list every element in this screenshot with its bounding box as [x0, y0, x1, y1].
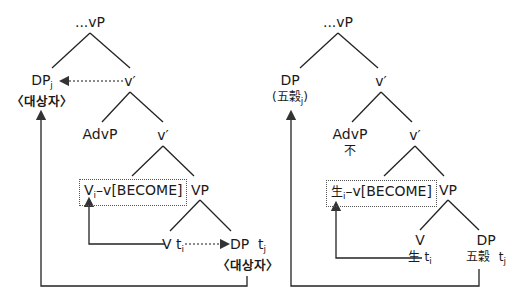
- vbar1-node: v′: [375, 73, 386, 89]
- advp-label: AdvP: [333, 126, 368, 142]
- v-word: 生: [408, 250, 420, 264]
- vbar1-node: v′: [124, 73, 135, 89]
- v-label: V: [162, 236, 172, 252]
- vbar2-node: v′: [157, 127, 168, 143]
- head-become-label: –v[BECOME]: [96, 182, 182, 198]
- dp-label: DP: [476, 232, 495, 248]
- head-v-label: V: [84, 182, 94, 198]
- head-complex-box: 生i–v[BECOME]: [326, 180, 437, 207]
- spec-dp-node: DPj 〈대상자〉: [11, 72, 73, 110]
- head-sheng-label: 生: [331, 185, 343, 199]
- vp-node: VP: [191, 182, 209, 198]
- root-label: ...vP: [75, 14, 105, 30]
- spec-dp-label: DP: [280, 72, 299, 88]
- spec-dp-index: j: [50, 80, 53, 90]
- head-complex-box: Vi–v[BECOME]: [79, 179, 187, 206]
- head-become-label: –v[BECOME]: [346, 183, 432, 199]
- advp-node: AdvP: [83, 126, 118, 142]
- spec-dp-node: DP (五穀j): [272, 72, 308, 109]
- v-label: V: [415, 232, 425, 248]
- root-vp-node: ...vP: [75, 14, 105, 30]
- spec-dp-gloss: 〈대상자〉: [11, 94, 73, 109]
- dp-trace-index: j: [504, 256, 507, 266]
- vbar2-node: v′: [409, 127, 420, 143]
- dp-node: DP 五穀 tj: [466, 232, 506, 269]
- advp-node: AdvP 不: [333, 126, 368, 159]
- v-trace-node: V ti: [162, 236, 184, 257]
- vp-node: VP: [439, 182, 457, 198]
- gloss-close: ): [303, 90, 308, 104]
- advp-word: 不: [344, 144, 356, 158]
- dp-label: DP: [230, 236, 249, 252]
- root-vp-node: ...vP: [323, 14, 353, 30]
- v-node: V 生 ti: [408, 232, 432, 269]
- spec-dp-label: DP: [31, 72, 50, 88]
- dp-word: 五穀: [466, 250, 490, 264]
- v-trace-index: i: [182, 244, 185, 254]
- left-syntax-tree: ...vP DPj 〈대상자〉 v′ AdvP v′ Vi–v[BECOME] …: [0, 0, 260, 306]
- right-syntax-tree: ...vP DP (五穀j) v′ AdvP 不 v′ 生i–v[BECOME]…: [260, 0, 519, 306]
- v-trace-index: i: [429, 256, 432, 266]
- spec-dp-gloss: 五穀: [277, 90, 301, 104]
